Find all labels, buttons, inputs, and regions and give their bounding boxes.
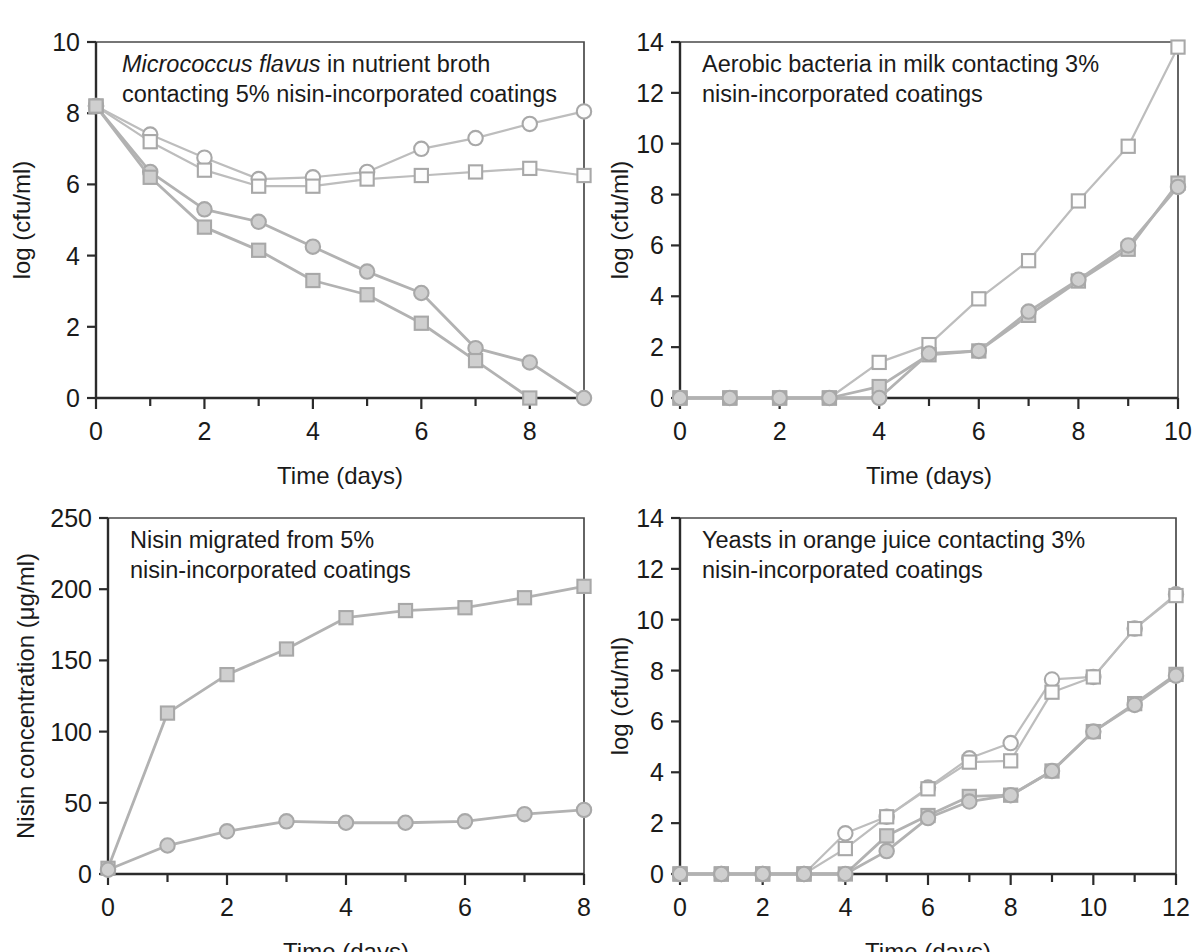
data-point-marker [1087,670,1100,683]
svg-text:4: 4 [872,417,886,445]
data-point-marker [458,814,472,828]
svg-text:12: 12 [1162,893,1190,921]
svg-text:8: 8 [523,417,537,445]
data-point-marker [89,99,102,112]
data-point-marker [772,391,786,405]
data-point-marker [673,391,687,405]
data-point-marker [1045,672,1059,686]
svg-text:14: 14 [636,28,664,56]
x-axis-title: Time (days) [283,938,409,952]
svg-text:2: 2 [650,809,664,837]
data-series-filled-square [673,668,1182,881]
svg-text:4: 4 [650,282,664,310]
data-point-marker [1021,304,1035,318]
data-point-marker [198,221,211,234]
data-point-marker [1072,194,1085,207]
data-point-marker [1171,40,1184,53]
data-point-marker [523,391,536,404]
data-point-marker [1169,589,1182,602]
panel-caption: Nisin migrated from 5%nisin-incorporated… [130,527,411,583]
y-axis-ticks: 02468101214 [636,504,680,888]
data-point-marker [822,391,836,405]
svg-text:0: 0 [66,384,80,412]
svg-text:4: 4 [306,417,320,445]
svg-text:4: 4 [650,758,664,786]
data-point-marker [972,344,986,358]
svg-text:2: 2 [650,333,664,361]
data-point-marker [1045,764,1059,778]
data-point-marker [252,244,265,257]
data-point-marker [161,706,174,719]
data-point-marker [577,803,591,817]
data-point-marker [880,810,893,823]
chart-panel-aerobic-bacteria-milk: 024681012140246810Time (days)log (cfu/ml… [598,0,1198,476]
data-point-marker [414,286,428,300]
data-point-marker [144,171,157,184]
y-axis-ticks: 02468101214 [636,28,680,412]
svg-text:10: 10 [636,130,664,158]
svg-text:6: 6 [650,707,664,735]
data-point-marker [414,142,428,156]
chart-panel-yeasts-orange-juice: 02468101214024681012Time (days)log (cfu/… [598,470,1198,952]
svg-text:6: 6 [414,417,428,445]
data-point-marker [280,642,293,655]
data-point-marker [755,867,769,881]
data-point-marker [361,288,374,301]
svg-text:12: 12 [636,555,664,583]
data-point-marker [839,842,852,855]
x-axis-ticks: 02468 [89,398,584,445]
data-point-marker [220,824,234,838]
data-series-filled-circle [673,668,1183,881]
chart-svg: 05010015020025002468Time (days)Nisin con… [0,470,600,952]
svg-text:Yeasts in orange juice contact: Yeasts in orange juice contacting 3% [702,527,1085,553]
data-point-marker [306,180,319,193]
svg-text:8: 8 [650,657,664,685]
data-point-marker [1169,668,1183,682]
data-point-marker [921,811,935,825]
svg-text:contacting 5% nisin-incorporat: contacting 5% nisin-incorporated coating… [122,81,557,107]
data-point-marker [962,794,976,808]
svg-text:0: 0 [650,384,664,412]
svg-text:6: 6 [972,417,986,445]
svg-text:2: 2 [220,893,234,921]
data-point-marker [1127,698,1141,712]
x-axis-ticks: 02468 [101,874,591,921]
data-point-marker [1045,686,1058,699]
svg-text:Aerobic bacteria in milk conta: Aerobic bacteria in milk contacting 3% [702,51,1099,77]
data-point-marker [198,164,211,177]
svg-text:0: 0 [673,417,687,445]
data-point-marker [339,611,352,624]
svg-text:8: 8 [650,181,664,209]
chart-svg: 024681012140246810Time (days)log (cfu/ml… [598,0,1198,476]
svg-text:250: 250 [50,504,92,532]
data-point-marker [518,591,531,604]
data-point-marker [144,135,157,148]
data-series-open-square [673,589,1182,881]
data-point-marker [963,756,976,769]
svg-text:4: 4 [838,893,852,921]
chart-svg: 024681002468Time (days)log (cfu/ml)Micro… [0,0,600,476]
panel-caption: Micrococcus flavus in nutrient brothcont… [122,51,557,107]
data-point-marker [252,180,265,193]
data-point-marker [251,215,265,229]
data-point-marker [577,169,590,182]
data-point-marker [469,354,482,367]
svg-text:10: 10 [636,606,664,634]
svg-text:nisin-incorporated coatings: nisin-incorporated coatings [702,81,983,107]
data-point-marker [1003,788,1017,802]
data-point-marker [1171,180,1185,194]
chart-panel-nisin-migration: 05010015020025002468Time (days)Nisin con… [0,470,600,952]
data-series-open-square [89,99,590,192]
svg-text:6: 6 [921,893,935,921]
data-point-marker [517,807,531,821]
data-point-marker [306,240,320,254]
svg-text:8: 8 [577,893,591,921]
svg-text:6: 6 [66,170,80,198]
data-point-marker [523,355,537,369]
svg-text:2: 2 [197,417,211,445]
data-point-marker [361,172,374,185]
data-point-marker [360,264,374,278]
svg-text:Micrococcus flavus in nutrient: Micrococcus flavus in nutrient broth [122,51,490,77]
y-axis-ticks: 0246810 [52,28,96,412]
svg-text:2: 2 [756,893,770,921]
